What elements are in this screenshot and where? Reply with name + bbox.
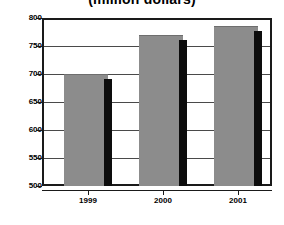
x-tick-mark	[238, 190, 239, 195]
x-tick-label-1999: 1999	[79, 196, 97, 205]
y-tick-mark	[36, 186, 42, 187]
bars-layer	[42, 18, 272, 186]
x-tick-label-2000: 2000	[154, 196, 172, 205]
bar-1999[interactable]	[64, 74, 112, 186]
bar-chart: (million dollars) 800 750 700 650 600 55…	[0, 0, 284, 225]
bar-shadow-2000	[179, 40, 187, 186]
y-axis: 800 750 700 650 600 550 500	[0, 0, 42, 225]
x-tick-mark	[88, 190, 89, 195]
bar-2001[interactable]	[214, 26, 262, 186]
chart-title: (million dollars)	[0, 0, 284, 7]
x-tick-mark	[163, 190, 164, 195]
x-axis: 1999 2000 2001	[42, 190, 272, 210]
bar-2000[interactable]	[139, 35, 187, 186]
x-tick-label-2001: 2001	[229, 196, 247, 205]
bar-body-2000	[139, 35, 183, 186]
bar-body-1999	[64, 74, 108, 186]
bar-shadow-2001	[254, 31, 262, 186]
bar-body-2001	[214, 26, 258, 186]
bar-shadow-1999	[104, 79, 112, 186]
chart-title-clipped: (million dollars)	[0, 0, 284, 8]
